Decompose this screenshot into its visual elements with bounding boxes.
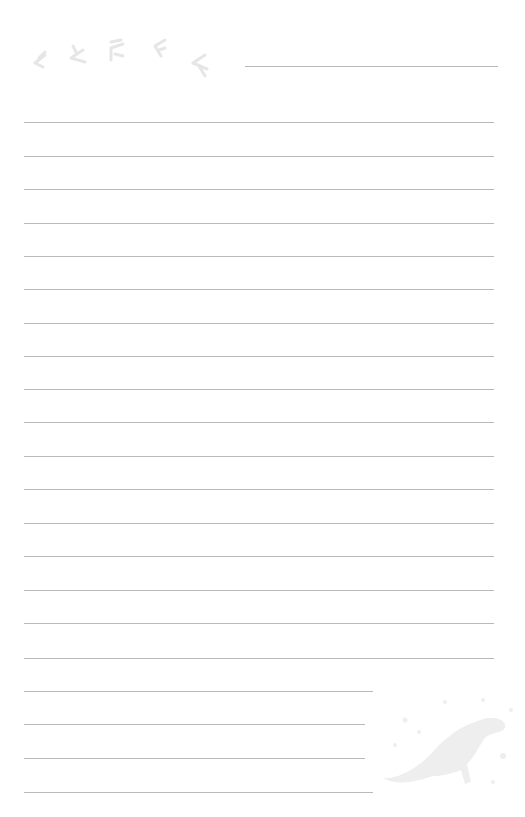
ruled-line: [24, 556, 494, 557]
dinosaur-icon: [375, 690, 520, 805]
ruled-line: [24, 223, 494, 224]
ruled-line: [24, 323, 494, 324]
header-line: [245, 66, 498, 67]
birds-icon: [25, 18, 225, 78]
lined-paper-page: [0, 0, 525, 817]
ruled-line: [24, 691, 373, 692]
ruled-line: [24, 523, 494, 524]
ruled-line: [24, 122, 494, 123]
ruled-line: [24, 189, 494, 190]
ruled-line: [24, 489, 494, 490]
ruled-line: [24, 758, 365, 759]
ruled-line: [24, 422, 494, 423]
ruled-line: [24, 658, 494, 659]
ruled-line: [24, 256, 494, 257]
ruled-line: [24, 389, 494, 390]
ruled-line: [24, 156, 494, 157]
ruled-line: [24, 289, 494, 290]
ruled-line: [24, 456, 494, 457]
ruled-line: [24, 623, 494, 624]
ruled-line: [24, 356, 494, 357]
ruled-line: [24, 792, 373, 793]
ruled-line: [24, 724, 365, 725]
ruled-line: [24, 590, 494, 591]
